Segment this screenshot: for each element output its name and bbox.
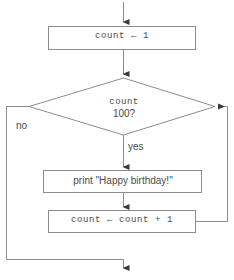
node-increment-label: count ← count + 1 — [48, 216, 196, 226]
node-decision-label-line2: 100? — [74, 108, 174, 119]
edge-label-yes: yes — [128, 141, 144, 152]
node-init-label: count ← 1 — [48, 32, 196, 42]
edge-loop-back — [196, 107, 228, 222]
node-decision-label-line1: count — [74, 97, 174, 107]
flowchart-canvas: count ← 1 count 100? print "Happy birthd… — [0, 0, 234, 280]
edge-label-no: no — [16, 120, 27, 131]
node-print-label: print "Happy birthday!" — [44, 175, 202, 186]
flowchart-svg — [0, 0, 234, 280]
